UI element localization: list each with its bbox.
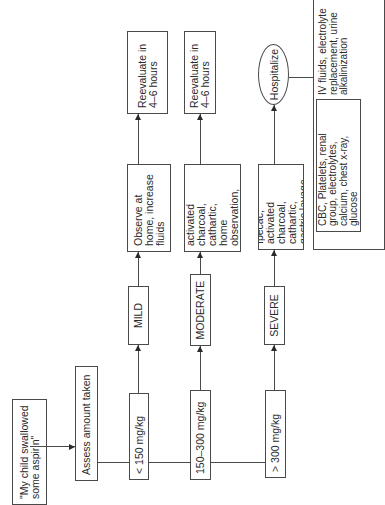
dose-node-low: < 150 mg/kg xyxy=(129,393,149,480)
arrowhead-icon xyxy=(135,114,141,120)
treatment-node-severe: Ipecac, activated charcoal, cathartic, g… xyxy=(258,164,304,250)
severity-label: SEVERE xyxy=(269,294,280,337)
labs-label: CBC, Platelets, renal group, electrolyte… xyxy=(318,133,360,226)
dose-label: 150–300 mg/kg xyxy=(195,402,206,474)
treatment-label: Ipecac, activated charcoal, cathartic, h… xyxy=(184,170,241,246)
severity-node-severe: SEVERE xyxy=(264,286,285,345)
hospital-labs-node: CBC, Platelets, renal group, electrolyte… xyxy=(316,99,361,232)
dose-label: > 300 mg/kg xyxy=(270,414,281,472)
assess-node: Assess amount taken xyxy=(75,366,98,481)
connector-moderate-followup xyxy=(200,114,201,164)
followup-label: Reevaluate in 4–6 hours xyxy=(137,44,159,108)
treatment-node-moderate: Ipecac, activated charcoal, cathartic, h… xyxy=(184,164,241,252)
start-node: "My child swallowed some aspirin" xyxy=(12,399,47,505)
hospitalize-node: Hospitalize xyxy=(258,44,289,105)
hospitalize-label: Hospitalize xyxy=(268,49,280,100)
connector-mild-followup xyxy=(138,114,139,164)
severity-node-mild: MILD xyxy=(128,286,149,345)
treatment-node-mild: Observe at home, increase fluids xyxy=(127,164,171,252)
hospital-therapy-text: IV fluids, electrolyte replacement, urin… xyxy=(318,0,350,95)
flowchart-canvas: "My child swallowed some aspirin" Assess… xyxy=(0,0,385,505)
arrowhead-icon xyxy=(135,252,141,258)
arrowhead-icon xyxy=(135,345,141,351)
connector-severe-hospitalize xyxy=(274,105,275,164)
arrowhead-icon xyxy=(197,346,203,352)
treatment-label: Observe at home, increase fluids xyxy=(133,174,166,246)
treatment-label: Ipecac, activated charcoal, cathartic, g… xyxy=(258,170,304,244)
start-node-label: "My child swallowed some aspirin" xyxy=(19,405,41,499)
dose-node-mid: 150–300 mg/kg xyxy=(190,390,211,480)
connector-high-severe xyxy=(274,345,275,390)
followup-node-moderate: Reevaluate in 4–6 hours xyxy=(184,31,216,114)
arrowhead-icon xyxy=(197,114,203,120)
arrowhead-icon xyxy=(271,250,277,256)
arrowhead-icon xyxy=(271,345,277,351)
severity-label: MODERATE xyxy=(195,281,206,340)
connector-hospitalize-actions xyxy=(289,77,313,78)
arrowhead-icon xyxy=(197,252,203,258)
severity-label: MILD xyxy=(133,303,144,328)
dose-label: < 150 mg/kg xyxy=(134,416,145,474)
arrowhead-icon xyxy=(271,105,277,111)
connector-dose-trunk xyxy=(97,462,265,463)
dose-node-high: > 300 mg/kg xyxy=(265,390,286,478)
connector-mid-moderate xyxy=(200,346,201,390)
followup-node-mild: Reevaluate in 4–6 hours xyxy=(127,31,168,114)
followup-label: Reevaluate in 4–6 hours xyxy=(189,44,211,108)
assess-node-label: Assess amount taken xyxy=(81,375,92,475)
severity-node-moderate: MODERATE xyxy=(190,274,211,346)
connector-low-mild xyxy=(138,345,139,393)
